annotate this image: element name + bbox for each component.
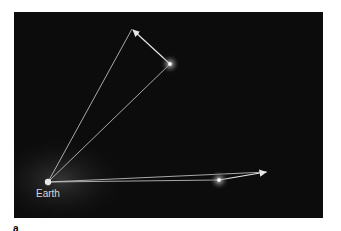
parallax-diagram	[14, 12, 323, 218]
diagram-panel: Earth	[14, 12, 323, 218]
star1-icon	[168, 62, 172, 66]
earth-label: Earth	[36, 188, 60, 199]
earth-glow	[14, 135, 130, 218]
panel-label: a	[13, 224, 19, 231]
star2-icon	[217, 178, 221, 182]
